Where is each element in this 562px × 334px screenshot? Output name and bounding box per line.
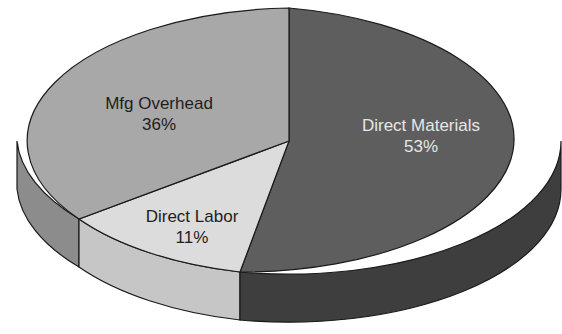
label-direct-materials-name: Direct Materials (362, 115, 480, 136)
pie-chart-3d (0, 0, 562, 334)
label-mfg-overhead: Mfg Overhead 36% (105, 93, 213, 135)
label-mfg-overhead-pct: 36% (105, 114, 213, 135)
label-direct-labor: Direct Labor 11% (146, 206, 239, 248)
label-direct-labor-name: Direct Labor (146, 206, 239, 227)
label-direct-materials-pct: 53% (362, 136, 480, 157)
label-direct-labor-pct: 11% (146, 227, 239, 248)
label-mfg-overhead-name: Mfg Overhead (105, 93, 213, 114)
label-direct-materials: Direct Materials 53% (362, 115, 480, 157)
